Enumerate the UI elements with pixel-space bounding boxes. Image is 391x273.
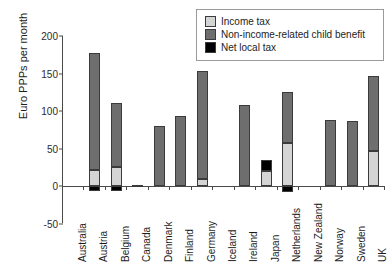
x-axis-tick-mark (148, 186, 149, 190)
bar-segment-child-benefit (132, 185, 143, 187)
x-axis-tick-mark (169, 186, 170, 190)
x-axis-tick-mark (105, 186, 106, 190)
legend-label-net-local-tax: Net local tax (221, 42, 276, 53)
x-axis-tick-label: Finland (184, 229, 195, 262)
bar-segment-child-benefit (347, 121, 358, 186)
bar-segment-income-tax (368, 151, 379, 186)
bar-segment-income-tax (197, 179, 208, 186)
legend-label-child-benefit: Non-income-related child benefit (221, 29, 365, 40)
x-axis-tick-mark (83, 186, 84, 190)
bar-chart: Euro PPPs per month 200150100500-50 Aust… (0, 0, 391, 273)
bar-segment-child-benefit (282, 92, 293, 143)
bar-segment-net-local-tax (261, 160, 272, 171)
bar-segment-income-tax (89, 170, 100, 186)
y-axis-tick-label: 150 (41, 68, 58, 79)
x-axis-tick-mark (234, 186, 235, 190)
x-axis-tick-mark (212, 186, 213, 190)
x-axis-tick-label: Ireland (248, 231, 259, 262)
x-axis-tick-mark (341, 186, 342, 190)
bar-segment-child-benefit (325, 120, 336, 186)
y-axis-tick-label: 100 (41, 106, 58, 117)
x-axis-tick-mark (126, 186, 127, 190)
x-axis-tick-label: New Zealand (313, 203, 324, 262)
x-axis-tick-label: Iceland (227, 230, 238, 262)
bar-group (255, 36, 276, 260)
x-axis-tick-mark (255, 186, 256, 190)
legend-label-income-tax: Income tax (221, 16, 270, 27)
bar-group (234, 36, 255, 260)
legend-swatch-child-benefit (205, 29, 216, 40)
legend-item: Income tax (205, 16, 376, 27)
bar-segment-child-benefit (239, 105, 250, 186)
bar-segment-net-local-tax (111, 186, 122, 191)
y-axis-tick-label: -50 (44, 218, 58, 229)
x-axis-tick-mark (62, 186, 63, 190)
bars-layer (62, 36, 384, 260)
legend-item: Non-income-related child benefit (205, 29, 376, 40)
bar-segment-income-tax (282, 143, 293, 186)
x-axis-tick-label: Belgium (120, 226, 131, 262)
x-axis-tick-label: Norway (334, 228, 345, 262)
y-axis-tick-labels: 200150100500-50 (0, 0, 58, 273)
x-axis-tick-label: UK (377, 248, 388, 262)
bar-segment-income-tax (261, 171, 272, 186)
x-axis-tick-label: Netherlands (291, 208, 302, 262)
bar-segment-child-benefit (175, 116, 186, 186)
x-axis-tick-label: Australia (77, 223, 88, 262)
x-axis-tick-label: Denmark (163, 221, 174, 262)
bar-segment-income-tax (111, 167, 122, 186)
x-axis-tick-mark (384, 186, 385, 190)
bar-segment-child-benefit (89, 53, 100, 171)
x-axis-tick-mark (277, 186, 278, 190)
bar-segment-net-local-tax (89, 186, 100, 191)
x-axis-tick-mark (191, 186, 192, 190)
legend: Income tax Non-income-related child bene… (196, 9, 384, 61)
x-axis-tick-label: Sweden (356, 226, 367, 262)
bar-segment-child-benefit (368, 76, 379, 151)
legend-item: Net local tax (205, 42, 376, 53)
x-axis-tick-label: Japan (270, 235, 281, 262)
legend-swatch-net-local-tax (205, 42, 216, 53)
bar-segment-child-benefit (154, 126, 165, 186)
y-axis-tick-label: 200 (41, 31, 58, 42)
x-axis-tick-mark (363, 186, 364, 190)
legend-swatch-income-tax (205, 16, 216, 27)
x-axis-tick-label: Canada (141, 227, 152, 262)
bar-segment-net-local-tax (282, 186, 293, 192)
x-axis-tick-mark (320, 186, 321, 190)
bar-segment-child-benefit (197, 71, 208, 179)
bar-segment-child-benefit (111, 103, 122, 168)
x-axis-tick-label: Germany (206, 221, 217, 262)
x-axis-tick-mark (298, 186, 299, 190)
y-axis-tick-label: 50 (47, 143, 58, 154)
y-axis-tick-label: 0 (52, 181, 58, 192)
x-axis-tick-label: Austria (98, 231, 109, 262)
